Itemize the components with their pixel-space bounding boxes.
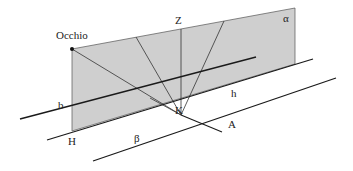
eye-point: [70, 47, 74, 51]
label-plane-beta: β: [134, 133, 140, 144]
label-point-k: K: [175, 105, 183, 116]
label-zenith: Z: [175, 15, 182, 26]
label-line-b: b: [58, 100, 64, 111]
label-point-a: A: [228, 119, 236, 130]
label-line-h: h: [231, 88, 237, 99]
label-point-h: H: [68, 136, 76, 147]
label-eye: Occhio: [56, 30, 88, 41]
label-plane-alpha: α: [283, 13, 289, 24]
perspective-diagram: Occhio Z α b H K h β A: [0, 0, 353, 171]
